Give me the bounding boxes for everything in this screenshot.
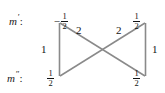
- row-label-m-prime-mark: ′: [17, 12, 19, 22]
- node-bottom-right-fraction: 1 2: [133, 69, 140, 87]
- node-bottom-left-numerator: 1: [47, 69, 53, 77]
- row-label-m-double-prime-mark: ″: [15, 69, 18, 79]
- edge-label-diagonal-right: 2: [116, 24, 122, 36]
- node-top-right: 1 2: [133, 10, 159, 32]
- row-label-m-double-prime-base: m: [7, 72, 15, 84]
- row-label-m-prime-base: m: [9, 15, 17, 27]
- edge-label-diagonal-left: 2: [76, 24, 82, 36]
- row-label-m-prime-colon: :: [20, 15, 23, 27]
- edge-label-right-vertical: 1: [152, 43, 158, 55]
- node-top-left-numerator: 1: [61, 12, 67, 20]
- node-bottom-left: 1 2: [47, 67, 73, 89]
- row-label-m-double-prime-colon: :: [20, 72, 23, 84]
- node-top-left-fraction: 1 2: [61, 12, 68, 30]
- node-top-right-denominator: 2: [133, 22, 139, 30]
- node-bottom-right-numerator: 1: [133, 69, 139, 77]
- node-bottom-left-fraction: 1 2: [47, 69, 54, 87]
- row-label-m-prime: m′:: [9, 12, 23, 27]
- row-label-m-double-prime: m″:: [7, 69, 23, 84]
- node-bottom-right-denominator: 2: [133, 79, 139, 87]
- node-bottom-left-denominator: 2: [47, 79, 53, 87]
- edge-label-left-vertical: 1: [41, 43, 47, 55]
- node-top-right-fraction: 1 2: [133, 12, 140, 30]
- node-top-left: − 1 2: [38, 10, 68, 32]
- diagram-canvas: m′: m″: − 1 2 1 2 1 2 1 2 1 1 2: [0, 0, 165, 93]
- node-top-left-denominator: 2: [61, 22, 67, 30]
- node-top-left-sign: −: [54, 16, 60, 27]
- node-top-right-numerator: 1: [133, 12, 139, 20]
- node-bottom-right: 1 2: [133, 67, 159, 89]
